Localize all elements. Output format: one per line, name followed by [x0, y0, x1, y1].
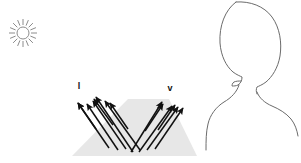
- label-incident-l: l: [78, 81, 81, 91]
- sun-icon: [9, 19, 37, 47]
- reflectance-diagram: l v: [0, 0, 301, 163]
- diagram-canvas: l v: [0, 0, 301, 163]
- head-silhouette-outline: [206, 2, 298, 150]
- label-view-v: v: [167, 83, 172, 93]
